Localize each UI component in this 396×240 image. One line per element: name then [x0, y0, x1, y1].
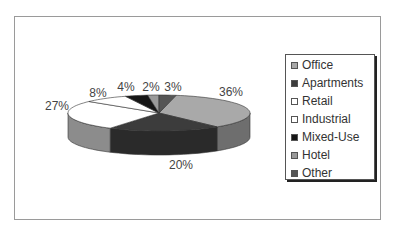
legend-swatch-apartments — [291, 80, 298, 87]
legend-label: Retail — [302, 94, 333, 108]
legend-swatch-hotel — [291, 152, 298, 159]
legend-swatch-office — [291, 62, 298, 69]
legend-label: Apartments — [302, 76, 363, 90]
data-label-hotel: 2% — [142, 80, 159, 94]
legend-item-mixed-use: Mixed-Use — [291, 130, 359, 144]
chart-legend: Office Apartments Retail Industrial Mixe… — [285, 54, 375, 180]
legend-item-apartments: Apartments — [291, 76, 363, 90]
legend-item-hotel: Hotel — [291, 148, 330, 162]
legend-item-retail: Retail — [291, 94, 333, 108]
legend-item-office: Office — [291, 58, 333, 72]
pie-top-slices — [68, 95, 250, 131]
data-label-apartments: 20% — [169, 158, 193, 172]
data-label-retail: 27% — [45, 99, 69, 113]
legend-item-other: Other — [291, 166, 332, 180]
legend-swatch-mixed-use — [291, 134, 298, 141]
legend-label: Mixed-Use — [302, 130, 359, 144]
data-label-other: 3% — [164, 80, 181, 94]
data-label-office: 36% — [219, 85, 243, 99]
legend-swatch-other — [291, 170, 298, 177]
legend-swatch-retail — [291, 98, 298, 105]
legend-item-industrial: Industrial — [291, 112, 351, 126]
legend-label: Other — [302, 166, 332, 180]
legend-label: Office — [302, 58, 333, 72]
data-label-industrial: 8% — [89, 86, 106, 100]
legend-swatch-industrial — [291, 116, 298, 123]
data-label-mixed-use: 4% — [117, 80, 134, 94]
legend-label: Industrial — [302, 112, 351, 126]
legend-label: Hotel — [302, 148, 330, 162]
